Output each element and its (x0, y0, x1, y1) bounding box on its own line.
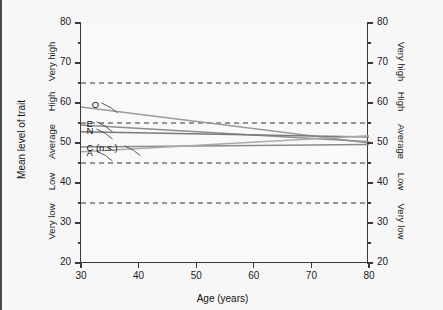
series-line-N (81, 132, 369, 137)
x-axis-title: Age (years) (2, 293, 443, 304)
x-tick-80 (368, 262, 369, 268)
y-tick-right-60 (367, 102, 373, 103)
y-axis-title: Mean level of trait (16, 100, 27, 179)
y-tick-left-40 (75, 182, 81, 183)
x-tick-label-70: 70 (296, 270, 326, 281)
x-tick-50 (196, 262, 197, 268)
x-tick-40 (138, 262, 139, 268)
y-minor-tick-right-35 (367, 202, 371, 203)
y-minor-tick-left-55 (78, 122, 82, 123)
series-line-A (81, 136, 369, 152)
y-tick-left-60 (75, 102, 81, 103)
plot-area: 2020303040405050606070708080304050607080… (80, 23, 368, 263)
y-tick-right-80 (367, 22, 373, 23)
x-tick-label-60: 60 (239, 270, 269, 281)
y-tick-label-left-20: 20 (47, 256, 71, 267)
y-minor-tick-left-65 (78, 82, 82, 83)
y-minor-tick-right-25 (367, 242, 371, 243)
y-minor-tick-right-55 (367, 122, 371, 123)
series-label-O: O (92, 99, 99, 110)
series-line-C (81, 145, 369, 147)
series-line-E (81, 125, 369, 142)
y-tick-right-30 (367, 222, 373, 223)
y-tick-label-left-80: 80 (47, 16, 71, 27)
y-minor-tick-right-65 (367, 82, 371, 83)
figure-panel: Mean level of trait 20203030404050506060… (0, 0, 443, 310)
x-tick-label-50: 50 (181, 270, 211, 281)
x-tick-60 (253, 262, 254, 268)
band-label-left-very-high: Very high (46, 32, 57, 92)
reference-lines-group (81, 83, 369, 203)
y-tick-right-40 (367, 182, 373, 183)
y-tick-right-50 (367, 142, 373, 143)
y-minor-tick-left-45 (78, 162, 82, 163)
y-minor-tick-left-25 (78, 242, 82, 243)
y-minor-tick-right-75 (367, 42, 371, 43)
y-tick-right-70 (367, 62, 373, 63)
x-tick-label-30: 30 (66, 270, 96, 281)
y-minor-tick-left-75 (78, 42, 82, 43)
chart-svg (81, 23, 369, 263)
y-tick-label-right-20: 20 (377, 256, 401, 267)
series-lines-group (81, 103, 369, 161)
series-label-A: A (86, 147, 92, 158)
band-label-right-very-high: Very high (396, 32, 407, 92)
y-minor-tick-left-35 (78, 202, 82, 203)
x-tick-label-80: 80 (354, 270, 384, 281)
series-label-N: N (86, 125, 93, 136)
x-tick-70 (311, 262, 312, 268)
y-tick-left-30 (75, 222, 81, 223)
y-tick-label-right-80: 80 (377, 16, 401, 27)
x-tick-30 (80, 262, 81, 268)
x-tick-label-40: 40 (124, 270, 154, 281)
y-tick-left-80 (75, 22, 81, 23)
y-minor-tick-right-45 (367, 162, 371, 163)
y-tick-left-50 (75, 142, 81, 143)
y-tick-left-70 (75, 62, 81, 63)
leader-arc-N (96, 129, 112, 139)
